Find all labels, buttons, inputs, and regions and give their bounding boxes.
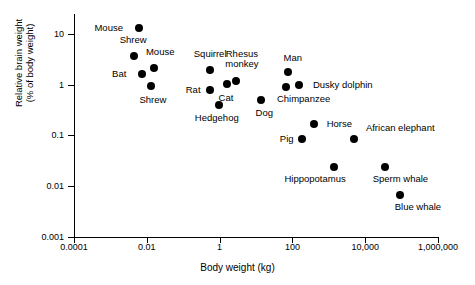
y-tick-mark — [68, 85, 74, 86]
data-point-label: Shrew — [120, 35, 147, 45]
y-axis-title-line2: (% of body weight) — [24, 0, 35, 139]
data-point — [206, 86, 214, 94]
y-axis-title-line1: Relative brain weight — [13, 0, 24, 139]
data-point-label: Hippopotamus — [284, 174, 345, 184]
data-point — [138, 70, 146, 78]
x-axis-line — [74, 237, 438, 238]
data-point — [284, 68, 292, 76]
data-point-label: Dog — [256, 108, 273, 118]
data-point-label: Sperm whale — [373, 174, 428, 184]
data-point — [135, 24, 143, 32]
data-point — [350, 135, 358, 143]
y-tick-label: 0.01 — [20, 182, 64, 191]
data-point-label: Mouse — [146, 47, 175, 57]
y-axis-title: Relative brain weight (% of body weight) — [13, 0, 35, 139]
y-tick-mark — [68, 135, 74, 136]
x-tick-label: 0.01 — [138, 243, 156, 252]
y-axis-line — [74, 14, 75, 238]
x-tick-label: 10,000 — [351, 243, 379, 252]
data-point — [223, 80, 231, 88]
data-point-label: Squirrel — [194, 49, 227, 59]
data-point — [381, 163, 389, 171]
data-point-label: Chimpanzee — [277, 94, 330, 104]
data-point — [330, 163, 338, 171]
data-point — [295, 81, 303, 89]
data-point-label: Shrew — [139, 95, 166, 105]
data-point-label: Pig — [280, 134, 294, 144]
data-point-label: Mouse — [94, 23, 123, 33]
data-point-label: Rhesusmonkey — [225, 48, 258, 69]
data-point — [396, 191, 404, 199]
scatter-chart-figure: 1010.10.010.001 0.00010.01110010,0001,00… — [0, 0, 475, 285]
data-point — [150, 64, 158, 72]
data-point-label: Blue whale — [395, 202, 441, 212]
data-point — [147, 82, 155, 90]
x-tick-label: 1,000,000 — [418, 243, 458, 252]
data-point — [310, 120, 318, 128]
data-point — [257, 96, 265, 104]
data-point-label: Bat — [112, 69, 126, 79]
x-tick-label: 0.0001 — [60, 243, 88, 252]
x-axis-title: Body weight (kg) — [0, 262, 475, 273]
data-point-label: Rat — [186, 85, 201, 95]
data-point-label: African elephant — [366, 123, 435, 133]
y-tick-label: 0.001 — [20, 233, 64, 242]
data-point-label: Horse — [327, 119, 352, 129]
data-point — [206, 66, 214, 74]
x-tick-label: 1 — [217, 243, 222, 252]
data-point — [232, 77, 240, 85]
y-tick-mark — [68, 186, 74, 187]
data-point — [298, 135, 306, 143]
data-point-label: Man — [284, 53, 302, 63]
y-tick-mark — [68, 34, 74, 35]
data-point-label: Dusky dolphin — [313, 80, 373, 90]
x-tick-label: 100 — [285, 243, 300, 252]
data-point — [130, 52, 138, 60]
data-point — [282, 83, 290, 91]
data-point-label: Cat — [219, 93, 234, 103]
data-point-label: Hedgehog — [195, 113, 239, 123]
